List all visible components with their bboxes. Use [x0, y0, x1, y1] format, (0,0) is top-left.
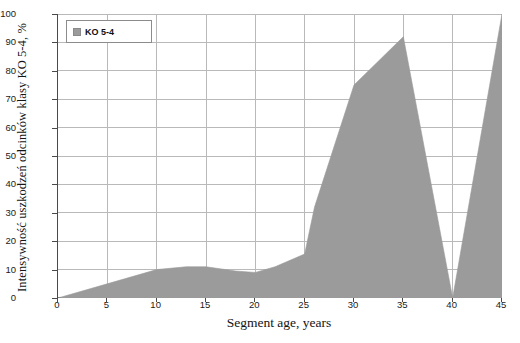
y-tick-label: 100: [0, 9, 16, 19]
y-tick-label: 30: [0, 208, 16, 218]
legend-label-ko-5-4: KO 5-4: [85, 27, 114, 37]
x-tick-mark: [353, 298, 354, 302]
chart-figure: Intensywność uszkodzeń odcinków klasy KO…: [0, 0, 520, 343]
plot-area: [57, 14, 501, 298]
y-tick-label: 60: [0, 123, 16, 133]
y-tick-mark: [52, 241, 57, 242]
y-tick-mark: [52, 14, 57, 15]
y-tick-label: 50: [0, 151, 16, 161]
x-tick-mark: [254, 298, 255, 302]
legend-swatch-ko-5-4: [73, 28, 81, 36]
y-tick-label: 20: [0, 236, 16, 246]
y-tick-mark: [52, 213, 57, 214]
y-tick-label: 90: [0, 37, 16, 47]
x-tick-mark: [402, 298, 403, 302]
y-tick-mark: [52, 99, 57, 100]
x-tick-mark: [205, 298, 206, 302]
x-tick-mark: [156, 298, 157, 302]
x-tick-mark: [501, 298, 502, 302]
y-tick-label: 40: [0, 179, 16, 189]
y-tick-mark: [52, 71, 57, 72]
y-tick-mark: [52, 156, 57, 157]
x-axis-title: Segment age, years: [57, 315, 501, 331]
x-tick-mark: [304, 298, 305, 302]
y-tick-mark: [52, 128, 57, 129]
x-tick-mark: [106, 298, 107, 302]
y-axis-title: Intensywność uszkodzeń odcinków klasy KO…: [15, 8, 30, 308]
x-tick-mark: [57, 298, 58, 302]
y-tick-label: 10: [0, 265, 16, 275]
legend: KO 5-4: [66, 20, 152, 43]
y-tick-label: 70: [0, 94, 16, 104]
x-tick-mark: [452, 298, 453, 302]
y-tick-mark: [52, 42, 57, 43]
area-series-ko-5-4: [58, 14, 502, 298]
y-tick-label: 0: [0, 293, 16, 303]
y-tick-label: 80: [0, 66, 16, 76]
y-tick-mark: [52, 270, 57, 271]
y-tick-mark: [52, 184, 57, 185]
